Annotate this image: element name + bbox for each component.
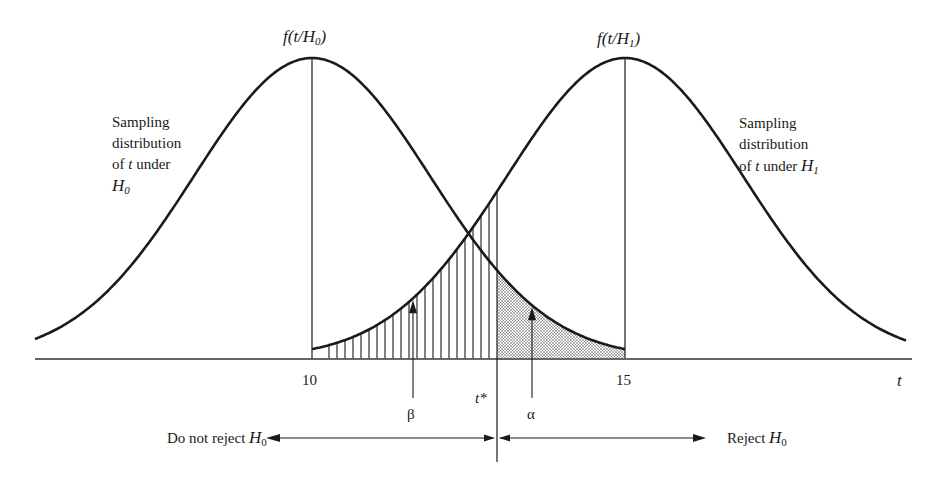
hypothesis-test-diagram xyxy=(0,0,938,485)
alpha-label: α xyxy=(527,406,535,423)
decision-arrows xyxy=(266,434,706,442)
h0-description: Sampling distribution of t under H0 xyxy=(112,112,181,197)
h0-distribution-curve xyxy=(35,58,625,349)
h1-description: Sampling distribution of t under H1 xyxy=(739,113,819,177)
do-not-reject-label: Do not reject H0 xyxy=(167,429,267,447)
h0-peak-label: f(t/H0) xyxy=(283,28,326,45)
h1-peak-label: f(t/H1) xyxy=(597,30,640,47)
arrowhead-left-icon xyxy=(266,434,280,442)
tick-label-15: 15 xyxy=(616,372,631,389)
arrowhead-right-icon xyxy=(693,434,706,442)
arrowhead-right-icon xyxy=(484,435,495,442)
beta-pointer-arrow xyxy=(409,300,417,398)
beta-label: β xyxy=(407,406,415,423)
axis-label-t: t xyxy=(897,372,902,389)
reject-label: Reject H0 xyxy=(727,429,787,447)
tick-label-10: 10 xyxy=(302,372,317,389)
critical-value-label: t* xyxy=(475,390,487,407)
h1-distribution-curve xyxy=(312,58,906,349)
arrowhead-left-icon xyxy=(499,435,510,442)
